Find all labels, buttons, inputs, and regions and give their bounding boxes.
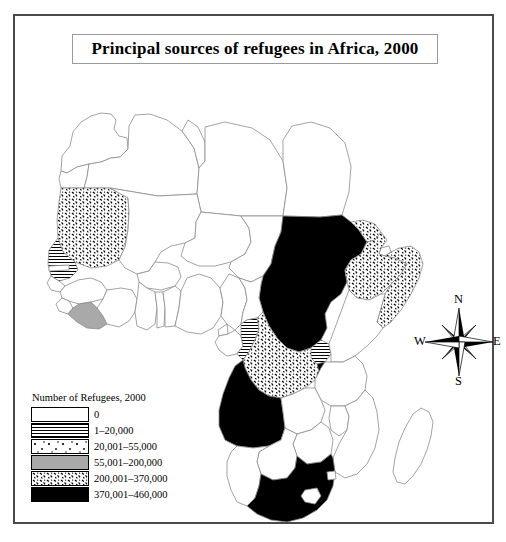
legend-swatch-0 (31, 407, 89, 422)
legend-item-1[interactable]: 1–20,000 (31, 422, 191, 438)
legend-swatch-4 (31, 471, 89, 486)
map-legend: Number of Refugees, 2000 0 1–20,000 20,0… (31, 392, 191, 502)
country-nigeria[interactable] (175, 274, 223, 334)
legend-swatch-3 (31, 455, 89, 470)
map-frame: Number of Refugees, 2000 0 1–20,000 20,0… (13, 14, 494, 524)
country-egypt[interactable] (283, 122, 351, 217)
legend-label-4: 200,001–370,000 (94, 473, 168, 484)
legend-heading: Number of Refugees, 2000 (32, 392, 191, 403)
legend-item-3[interactable]: 55,001–200,000 (31, 454, 191, 470)
legend-swatch-5 (31, 487, 89, 502)
legend-label-1: 1–20,000 (94, 425, 133, 436)
legend-swatch-2 (31, 439, 89, 454)
legend-label-5: 370,001–460,000 (94, 489, 168, 500)
legend-label-2: 20,001–55,000 (94, 441, 157, 452)
country-libya[interactable] (197, 122, 287, 216)
compass-label-west: W (414, 334, 426, 349)
map-title-box: Principal sources of refugees in Africa,… (72, 34, 438, 64)
legend-label-3: 55,001–200,000 (94, 457, 162, 468)
compass-label-north: N (454, 292, 463, 307)
page-title: Principal sources of refugees in Africa,… (91, 39, 418, 59)
legend-label-0: 0 (94, 409, 99, 420)
country-gambia[interactable] (49, 265, 69, 271)
legend-swatch-1 (31, 423, 89, 438)
compass-label-east: E (493, 334, 501, 349)
compass-rose: N E S W (413, 294, 505, 390)
country-swaziland[interactable] (327, 471, 336, 480)
legend-item-5[interactable]: 370,001–460,000 (31, 486, 191, 502)
legend-item-2[interactable]: 20,001–55,000 (31, 438, 191, 454)
compass-label-south: S (455, 374, 462, 389)
legend-item-0[interactable]: 0 (31, 406, 191, 422)
legend-item-4[interactable]: 200,001–370,000 (31, 470, 191, 486)
country-madagascar[interactable] (393, 408, 433, 484)
country-kenya[interactable] (329, 290, 385, 362)
